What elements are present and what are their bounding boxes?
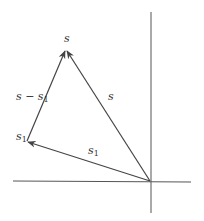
label-vector-s: s	[108, 91, 114, 102]
label-tip-s1: s1	[16, 131, 27, 144]
label-vector-s1: s1	[88, 145, 99, 158]
vector-s-arrow	[67, 51, 150, 181]
label-vector-s-text: s	[108, 90, 114, 103]
label-s-minus-s1: s − s1	[16, 91, 49, 104]
label-tip-s-text: s	[64, 32, 70, 45]
label-tip-s: s	[64, 33, 70, 44]
x-axis	[13, 181, 191, 182]
diagram-graphics	[0, 0, 204, 221]
label-tip-s1-subscript: 1	[22, 135, 27, 144]
vector-diagram: s s − s1 s s1 s1	[0, 0, 204, 221]
label-s-minus-s1-text: s − s	[16, 90, 44, 103]
label-vector-s1-subscript: 1	[94, 149, 99, 158]
label-s-minus-s1-subscript: 1	[44, 95, 49, 104]
